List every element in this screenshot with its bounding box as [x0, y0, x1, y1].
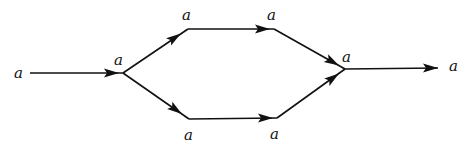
arrowhead-icon — [166, 30, 183, 46]
label-upper-right: a — [267, 6, 276, 24]
label-lower-right: a — [270, 125, 279, 143]
flow-diagram: a a a a a a a a — [0, 0, 474, 147]
label-output: a — [449, 57, 458, 75]
arrowhead-icon — [167, 102, 184, 118]
label-split: a — [114, 51, 123, 69]
arrowhead-icon — [324, 70, 341, 86]
label-lower-left: a — [184, 126, 193, 144]
arrowhead-icon — [324, 54, 341, 69]
label-merge: a — [342, 48, 351, 66]
label-upper-left: a — [182, 6, 191, 24]
label-input: a — [14, 64, 23, 82]
edge-merge-to-out — [345, 68, 438, 69]
